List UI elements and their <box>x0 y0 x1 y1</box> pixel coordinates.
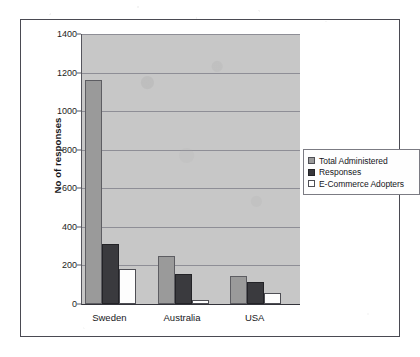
legend-label: Total Administered <box>319 156 388 166</box>
y-tick-mark-0 <box>77 304 81 305</box>
y-tick-label-1000: 1000 <box>45 106 77 116</box>
y-tick-mark-1400 <box>77 34 81 35</box>
y-tick-mark-1000 <box>77 111 81 112</box>
bar-sweden-total-administered <box>85 80 102 304</box>
legend-label: E-Commerce Adopters <box>319 179 404 189</box>
bar-sweden-responses <box>102 244 119 304</box>
plot-area <box>81 34 300 305</box>
y-tick-mark-600 <box>77 188 81 189</box>
chart-legend: Total AdministeredResponsesE-Commerce Ad… <box>303 149 420 195</box>
y-tick-label-600: 600 <box>45 183 77 193</box>
y-tick-label-400: 400 <box>45 222 77 232</box>
chart-frame: No of responses 020040060080010001200140… <box>20 19 400 337</box>
y-tick-label-200: 200 <box>45 260 77 270</box>
bar-group-sweden <box>85 34 136 304</box>
bar-sweden-e-commerce-adopters <box>119 269 136 304</box>
bar-usa-e-commerce-adopters <box>264 293 281 304</box>
legend-item-total-administered[interactable]: Total Administered <box>308 156 415 166</box>
y-tick-label-1200: 1200 <box>45 68 77 78</box>
bar-series-container <box>82 34 300 304</box>
y-tick-label-1400: 1400 <box>45 29 77 39</box>
y-tick-mark-200 <box>77 265 81 266</box>
legend-swatch-icon <box>308 180 315 187</box>
legend-item-responses[interactable]: Responses <box>308 167 415 177</box>
y-tick-label-800: 800 <box>45 145 77 155</box>
bar-australia-responses <box>175 274 192 304</box>
bar-australia-total-administered <box>158 256 175 304</box>
y-tick-mark-800 <box>77 149 81 150</box>
legend-item-e-commerce-adopters[interactable]: E-Commerce Adopters <box>308 179 415 189</box>
bar-usa-responses <box>247 282 264 304</box>
y-tick-label-0: 0 <box>45 299 77 309</box>
legend-label: Responses <box>319 167 361 177</box>
y-axis-tick-labels: 0200400600800100012001400 <box>43 20 77 338</box>
x-tick-label-usa: USA <box>209 312 300 323</box>
bar-group-australia <box>158 34 209 304</box>
legend-swatch-icon <box>308 169 315 176</box>
legend-swatch-icon <box>308 157 315 164</box>
y-tick-mark-400 <box>77 226 81 227</box>
bar-australia-e-commerce-adopters <box>192 300 209 304</box>
bar-group-usa <box>230 34 281 304</box>
y-tick-mark-1200 <box>77 72 81 73</box>
bar-usa-total-administered <box>230 276 247 304</box>
